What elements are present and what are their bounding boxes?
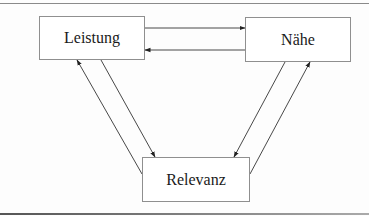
- node-naehe: Nähe: [245, 17, 351, 62]
- node-leistung-label: Leistung: [64, 29, 120, 47]
- bottom-rule: [0, 213, 369, 215]
- node-relevanz-label: Relevanz: [166, 171, 226, 189]
- edge-naehe-to-relevanz: [234, 62, 285, 157]
- node-relevanz: Relevanz: [142, 157, 250, 202]
- node-leistung: Leistung: [39, 16, 145, 60]
- node-naehe-label: Nähe: [281, 31, 315, 49]
- diagram-canvas: Leistung Nähe Relevanz: [0, 0, 369, 216]
- edge-relevanz-to-naehe: [250, 62, 310, 174]
- edge-leistung-to-relevanz: [101, 60, 155, 157]
